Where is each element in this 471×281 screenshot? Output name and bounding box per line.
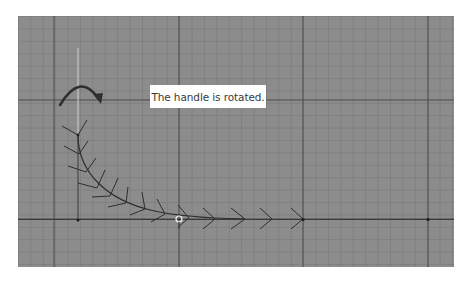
- caption-label: The handle is rotated.: [150, 85, 266, 108]
- diagram-overlay: [0, 0, 471, 281]
- origin-point[interactable]: [76, 218, 79, 221]
- caption-text: The handle is rotated.: [151, 91, 264, 103]
- far-point[interactable]: [426, 218, 429, 221]
- curved-clockwise-arrow-icon: [60, 87, 103, 105]
- curve-start-point[interactable]: [77, 134, 80, 137]
- end-point[interactable]: [301, 218, 304, 221]
- chevron-markers: [62, 120, 303, 229]
